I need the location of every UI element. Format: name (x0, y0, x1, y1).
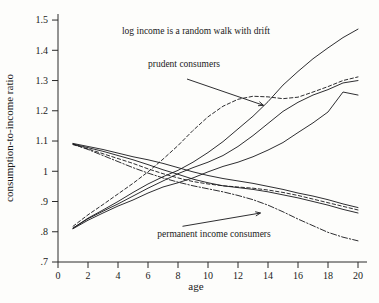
x-axis: 02468101214161820 (56, 262, 368, 281)
y-tick-label: .8 (41, 226, 49, 237)
x-tick-label: 10 (203, 270, 213, 281)
x-tick-label: 4 (116, 270, 121, 281)
y-tick-label: 1.1 (36, 135, 49, 146)
x-tick-label: 12 (233, 270, 243, 281)
series-line (73, 143, 358, 207)
annotation-arrow-group (183, 79, 264, 226)
series-line (73, 81, 358, 229)
y-tick-label: 1.4 (36, 45, 49, 56)
x-tick-label: 8 (176, 270, 181, 281)
prudent-consumers-arrow (187, 79, 264, 105)
y-tick-group: .7.8.911.11.21.31.41.5 (36, 14, 59, 267)
chart-figure: .7.8.911.11.21.31.41.5 02468101214161820… (0, 0, 379, 303)
y-tick-label: .7 (41, 256, 49, 267)
permanent-income-consumers-arrow (183, 213, 261, 226)
series-line (73, 77, 358, 226)
chart-annotation: log income is a random walk with drift (122, 26, 270, 36)
chart-canvas: .7.8.911.11.21.31.41.5 02468101214161820… (0, 0, 379, 303)
chart-annotation: permanent income consumers (157, 229, 271, 239)
y-tick-label: .9 (41, 196, 49, 207)
x-tick-label: 14 (263, 270, 273, 281)
x-tick-label: 0 (56, 270, 61, 281)
y-axis-title: consumption-to-income ratio (3, 74, 15, 202)
x-tick-label: 18 (323, 270, 333, 281)
y-tick-label: 1.5 (36, 14, 49, 25)
x-axis-title: age (188, 280, 203, 292)
x-tick-label: 6 (146, 270, 151, 281)
y-tick-label: 1.2 (36, 105, 49, 116)
x-tick-group: 02468101214161820 (56, 262, 364, 281)
x-tick-label: 2 (86, 270, 91, 281)
y-tick-label: 1 (43, 166, 48, 177)
x-tick-label: 16 (293, 270, 303, 281)
x-tick-label: 20 (353, 270, 363, 281)
y-axis: .7.8.911.11.21.31.41.5 (36, 14, 59, 267)
annotation-text-group: log income is a random walk with driftpr… (122, 26, 271, 240)
permanent-income-consumers-arrow-head (255, 212, 260, 213)
chart-annotation: prudent consumers (148, 59, 220, 69)
y-tick-label: 1.3 (36, 75, 49, 86)
